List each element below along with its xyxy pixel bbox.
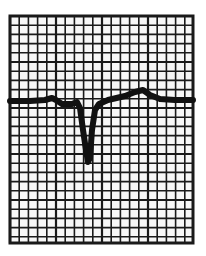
ecg-strip	[0, 0, 206, 256]
